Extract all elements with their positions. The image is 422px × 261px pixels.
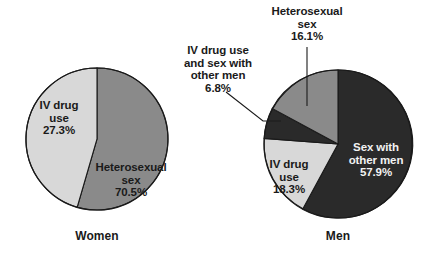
label-men-sex-with-other-men: Sex with other men 57.9% bbox=[337, 141, 415, 179]
label-women-heterosexual-sex: Heterosexual sex 70.5% bbox=[83, 161, 179, 199]
caption-women: Women bbox=[57, 229, 137, 243]
label-women-iv-drug-use: IV drug use 27.3% bbox=[22, 99, 96, 137]
label-men-iv-drug-use: IV drug use 18.3% bbox=[255, 158, 323, 196]
label-men-iv-drug-and-sex-with-other-men: IV drug use and sex with other men 6.8% bbox=[163, 44, 273, 94]
pie-chart-figure: IV drug use 27.3% Heterosexual sex 70.5%… bbox=[0, 0, 422, 261]
label-men-heterosexual-sex: Heterosexual sex 16.1% bbox=[255, 5, 359, 43]
caption-men: Men bbox=[310, 229, 366, 243]
